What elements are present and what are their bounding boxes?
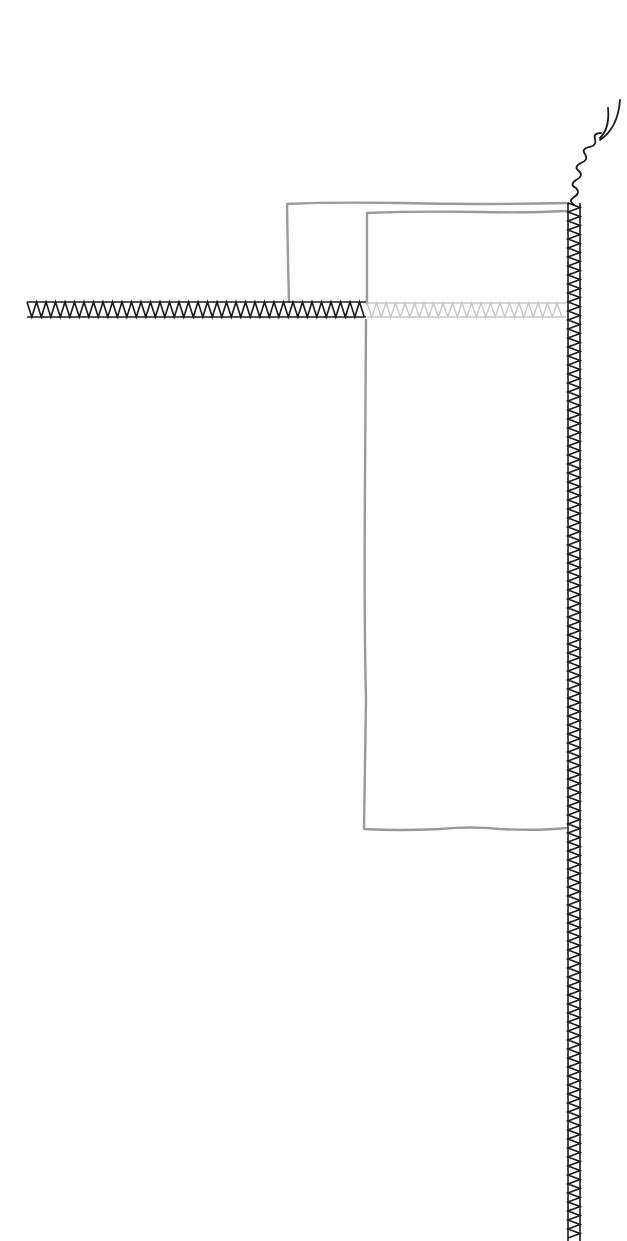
sewing-diagram (0, 0, 627, 1241)
background (0, 0, 627, 1241)
